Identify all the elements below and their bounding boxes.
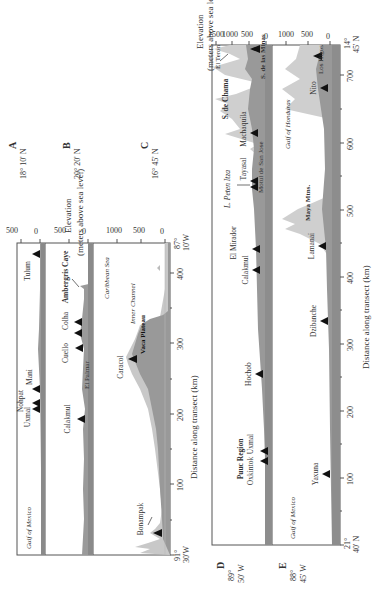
right-xlabel: Distance along transect (km)	[362, 265, 371, 369]
label-el-teron: El Teron	[215, 45, 222, 69]
panel-coord-d-2: 50' W	[238, 564, 246, 583]
label-gulf-of-mexico-e: Gulf of Mexico	[290, 497, 297, 539]
right-xtick-400: 400	[347, 272, 355, 284]
right-xtick-700: 700	[347, 70, 355, 82]
site-dzibanche: Dzibanche	[310, 305, 318, 337]
right-xtick-200: 200	[347, 406, 355, 418]
site-uxmal-d: Uxmal	[247, 434, 255, 454]
site-s-de-chama: S. de Chama	[222, 79, 230, 120]
site-los-higos: Los Higos	[318, 45, 325, 74]
site-hochob: Hochob	[245, 362, 253, 386]
panel-coord-e-2: 45' W	[300, 564, 308, 583]
figure-landscape: A 18° 10' N B 20° 20' N C 16° 45' N Elev…	[0, 0, 385, 589]
site-oxkintok: Oxkintok	[247, 457, 255, 485]
site-calakmul-d: Calakmul	[242, 255, 250, 284]
right-xtick-500: 500	[347, 205, 355, 217]
panel-coord-e-1: 88°	[290, 570, 298, 581]
site-motul: Motul de San Jose	[258, 141, 265, 193]
label-maya-mtns: Maya Mtns.	[305, 185, 312, 221]
panel-coord-d-1: 89°	[228, 570, 236, 581]
right-transect-chart	[0, 0, 385, 589]
panel-letter-e: E	[278, 562, 288, 569]
right-end-coord-2: 45' N	[353, 36, 361, 53]
site-lamanai: Lamanai	[308, 233, 316, 259]
site-nito: Nito	[310, 81, 318, 94]
label-gulf-of-honduras: Gulf of Honduras	[285, 100, 292, 149]
site-s-de-las-minas: S. de las Minas	[260, 34, 267, 79]
label-l-peten-itza: L. Peten Itza	[224, 170, 232, 208]
right-start-coord-2: 40' N	[353, 536, 361, 553]
right-start-coord-1: 21°	[344, 538, 352, 549]
right-xtick-100: 100	[347, 473, 355, 485]
site-tayasal: Tayasal	[240, 158, 248, 181]
figure-page: A 18° 10' N B 20° 20' N C 16° 45' N Elev…	[0, 0, 385, 589]
panel-letter-d: D	[216, 562, 226, 569]
site-yaxuna: Yaxuna	[312, 463, 320, 486]
site-el-mirador: El Mirador	[230, 226, 238, 259]
label-puuc-region: Puuc Region	[237, 439, 245, 480]
right-end-coord-1: 14°	[344, 38, 352, 49]
right-xtick-300: 300	[347, 339, 355, 351]
site-machaquila: Machaquila	[240, 111, 248, 146]
right-xtick-600: 600	[347, 138, 355, 150]
